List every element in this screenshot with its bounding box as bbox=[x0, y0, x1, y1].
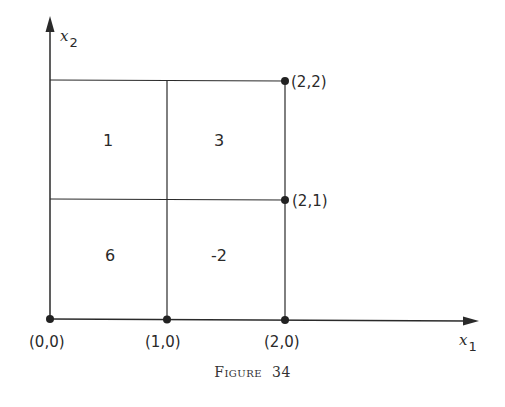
point-2-2 bbox=[281, 77, 289, 85]
x-axis-arrow-icon bbox=[463, 317, 479, 326]
point-label-1-0: (1,0) bbox=[145, 333, 181, 351]
point-label-2-1: (2,1) bbox=[292, 192, 328, 210]
caption-number: 34 bbox=[272, 364, 291, 380]
grid-diagram: (0,0) (1,0) (2,0) (2,1) (2,2) 1 3 6 -2 x… bbox=[0, 0, 505, 407]
point-2-0 bbox=[281, 316, 289, 324]
cell-value-top-right: 3 bbox=[214, 131, 224, 150]
point-label-0-0: (0,0) bbox=[29, 333, 65, 351]
cell-value-bottom-right: -2 bbox=[211, 246, 227, 265]
x-axis bbox=[50, 319, 466, 321]
x-axis-label: x1 bbox=[459, 331, 477, 354]
figure-caption: Figure 34 bbox=[0, 364, 505, 380]
point-label-2-0: (2,0) bbox=[264, 333, 300, 351]
point-2-1 bbox=[281, 196, 289, 204]
point-0-0 bbox=[46, 315, 54, 323]
y-axis-arrow-icon bbox=[46, 16, 55, 32]
point-label-2-2: (2,2) bbox=[291, 73, 327, 91]
point-1-0 bbox=[163, 316, 171, 324]
cell-value-top-left: 1 bbox=[103, 131, 113, 150]
cell-value-bottom-left: 6 bbox=[105, 246, 115, 265]
caption-word: Figure bbox=[214, 364, 262, 380]
y-axis-label: x2 bbox=[60, 27, 78, 50]
